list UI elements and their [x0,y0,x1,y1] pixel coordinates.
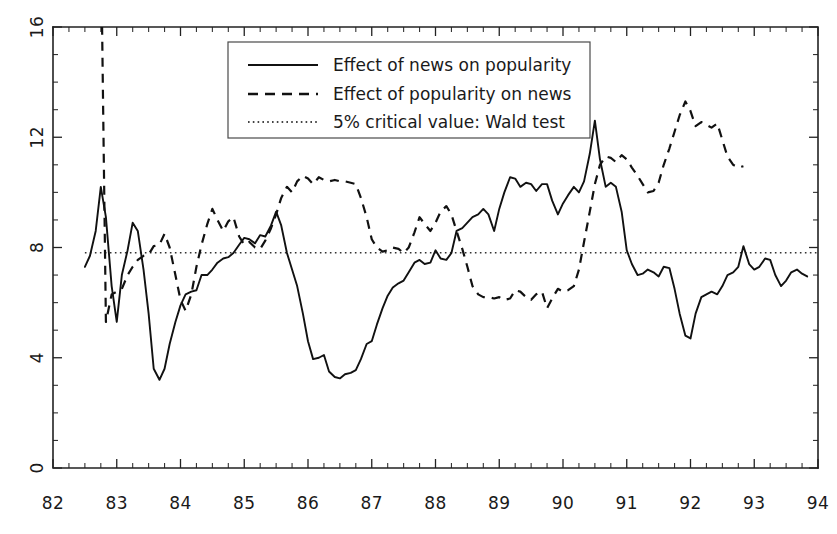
x-tick-label: 86 [297,493,319,513]
x-tick-label: 85 [233,493,255,513]
x-tick-label: 93 [743,493,765,513]
y-tick-label: 12 [27,126,47,148]
chart-svg: 0481216 82838485868788899091929394 Effec… [0,0,837,534]
legend-label-popularity-on-news: Effect of popularity on news [333,84,572,104]
x-tick-label: 83 [106,493,128,513]
chart-figure: 0481216 82838485868788899091929394 Effec… [0,0,837,534]
x-tick-label: 92 [679,493,701,513]
y-tick-label: 16 [27,16,47,38]
y-tick-label: 4 [27,352,47,363]
legend: Effect of news on popularity Effect of p… [228,42,590,138]
x-tick-label: 87 [361,493,383,513]
y-tick-label: 8 [27,242,47,253]
legend-label-critical-value: 5% critical value: Wald test [333,112,565,132]
y-tick-label: 0 [27,462,47,473]
x-tick-label: 89 [488,493,510,513]
x-tick-label: 91 [616,493,638,513]
x-tick-label: 82 [42,493,64,513]
x-tick-label: 90 [552,493,574,513]
x-tick-label: 88 [424,493,446,513]
x-tick-label: 84 [169,493,191,513]
legend-label-news-on-popularity: Effect of news on popularity [333,55,571,75]
x-tick-label: 94 [807,493,829,513]
